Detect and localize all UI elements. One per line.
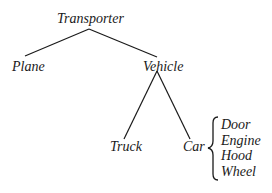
node-plane: Plane bbox=[12, 59, 45, 75]
part-hood: Hood bbox=[221, 148, 261, 164]
part-engine: Engine bbox=[221, 133, 261, 149]
node-transporter: Transporter bbox=[57, 11, 124, 27]
car-parts-list: Door Engine Hood Wheel bbox=[221, 117, 261, 179]
brace-icon bbox=[208, 117, 218, 180]
node-car: Car bbox=[183, 139, 205, 155]
hierarchy-diagram: Transporter Plane Vehicle Truck Car Door… bbox=[0, 0, 272, 193]
part-wheel: Wheel bbox=[221, 164, 261, 180]
part-door: Door bbox=[221, 117, 261, 133]
edge-vehicle-car bbox=[157, 71, 190, 139]
edge-transporter-plane bbox=[25, 29, 89, 56]
node-truck: Truck bbox=[110, 139, 142, 155]
node-vehicle: Vehicle bbox=[143, 59, 183, 75]
edge-vehicle-truck bbox=[124, 71, 157, 139]
edge-transporter-vehicle bbox=[89, 29, 157, 57]
